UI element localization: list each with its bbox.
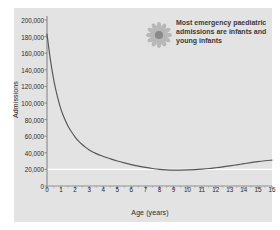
y-tick-label: 20,000 [4,166,44,173]
admissions-curve [47,34,272,170]
y-tick-label: 180,000 [4,33,44,40]
x-tick-label: 1 [59,186,63,193]
x-tick-label: 11 [198,186,205,193]
y-tick-label: 100,000 [4,100,44,107]
x-tick-label: 16 [268,186,275,193]
y-axis-tick-labels: 020,00040,00060,00080,000100,000120,0001… [0,0,44,230]
y-axis-title: Admissions [12,72,19,128]
x-tick-label: 6 [130,186,134,193]
y-tick-label: 140,000 [4,66,44,73]
x-tick-label: 15 [254,186,261,193]
x-tick-label: 8 [158,186,162,193]
x-tick-label: 3 [87,186,91,193]
y-tick-label: 200,000 [4,17,44,24]
x-tick-label: 10 [184,186,191,193]
y-tick-label: 0 [4,183,44,190]
y-tick-label: 160,000 [4,50,44,57]
x-tick-label: 9 [172,186,176,193]
x-axis-title: Age (years) [90,209,210,216]
flower-icon [144,20,174,50]
x-tick-label: 12 [212,186,219,193]
x-tick-label: 7 [144,186,148,193]
x-tick-label: 14 [240,186,247,193]
y-tick-label: 60,000 [4,133,44,140]
x-tick-label: 13 [226,186,233,193]
annotation-text: Most emergency paediatric admissions are… [176,18,272,46]
y-tick-label: 40,000 [4,149,44,156]
x-tick-label: 5 [116,186,120,193]
x-tick-label: 0 [45,186,49,193]
chart-figure: Most emergency paediatric admissions are… [0,0,280,230]
x-tick-label: 4 [101,186,105,193]
y-tick-label: 120,000 [4,83,44,90]
x-tick-label: 2 [73,186,77,193]
y-tick-label: 80,000 [4,116,44,123]
